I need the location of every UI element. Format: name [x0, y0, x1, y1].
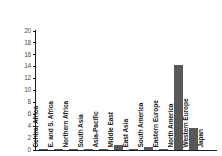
bar-category-label: North America: [169, 104, 176, 148]
y-axis-tick-label: 10: [24, 87, 33, 94]
bar-slot[interactable]: E. and S. Africa: [54, 149, 63, 150]
bar[interactable]: [129, 149, 138, 150]
bar-category-label: Asia-Pacific: [94, 112, 101, 148]
x-axis-line: [35, 150, 217, 151]
bar-category-label: Eastern Europe: [154, 101, 161, 148]
bar-category-label: South America: [139, 103, 146, 148]
bar-category-label: East Asia: [124, 119, 131, 148]
bar-category-label: Middle East: [109, 112, 116, 148]
y-axis-tick-label: 20: [24, 28, 33, 35]
bar-category-label: E. and S. Africa: [49, 101, 56, 148]
bar-slot[interactable]: South America: [144, 147, 153, 150]
bar[interactable]: [99, 149, 108, 150]
plot-area: Central AfricaE. and S. AfricaNorthern A…: [36, 31, 216, 150]
bar-category-label: South Asia: [79, 115, 86, 148]
y-axis-tick-label: 18: [24, 40, 33, 47]
bar-category-label: Western Europe: [184, 99, 191, 148]
bar[interactable]: [159, 149, 168, 150]
bar-slot[interactable]: Northern Africa: [69, 149, 78, 150]
bar-slot[interactable]: East Asia: [129, 149, 138, 150]
bar[interactable]: [54, 149, 63, 150]
bar[interactable]: [144, 147, 153, 150]
bar[interactable]: [69, 149, 78, 150]
bar-category-label: Central Africa: [34, 106, 41, 148]
bar-category-label: Northern Africa: [64, 101, 71, 148]
y-axis-tick-label: 12: [24, 75, 33, 82]
y-axis-tick-label: 14: [24, 63, 33, 70]
bar-slot[interactable]: Asia-Pacific: [99, 149, 108, 150]
bar[interactable]: [84, 149, 93, 150]
bar-slot[interactable]: Central Africa: [39, 149, 48, 150]
bar-chart: 20181614121086420 Central AfricaE. and S…: [0, 0, 222, 156]
bar-slot[interactable]: South Asia: [84, 149, 93, 150]
y-axis-tick-label: 16: [24, 52, 33, 59]
bar-category-label: Japan: [199, 129, 206, 148]
y-axis-ticks: 20181614121086420: [0, 31, 36, 150]
bar-slot[interactable]: Eastern Europe: [159, 149, 168, 150]
bar[interactable]: [39, 149, 48, 150]
